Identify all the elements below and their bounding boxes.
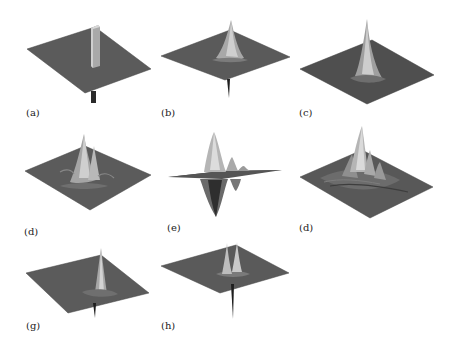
panel-e: (e) xyxy=(150,120,300,240)
surface-plot-a xyxy=(0,0,160,120)
surface-plot-b xyxy=(150,0,300,120)
panel-label-d-right: (d) xyxy=(299,222,313,233)
panel-label-g: (g) xyxy=(26,320,40,331)
panel-label-c: (c) xyxy=(299,107,312,118)
panel-label-b: (b) xyxy=(161,107,175,118)
panel-h: (h) xyxy=(150,240,300,346)
panel-d-left: (d) xyxy=(0,120,160,240)
panel-b: (b) xyxy=(150,0,300,120)
panel-label-d-left: (d) xyxy=(24,226,38,237)
panel-g: (g) xyxy=(0,240,160,346)
panel-label-e: (e) xyxy=(167,222,181,233)
panel-label-a: (a) xyxy=(26,107,40,118)
surface-plot-g xyxy=(0,240,160,346)
panel-d-right: (d) xyxy=(290,120,459,240)
surface-plot-c xyxy=(290,0,459,120)
panel-label-h: (h) xyxy=(161,320,175,331)
panel-a: (a) xyxy=(0,0,160,120)
surface-plot-d-right xyxy=(290,120,459,240)
panel-c: (c) xyxy=(290,0,459,120)
surface-plot-d-left xyxy=(0,120,160,240)
